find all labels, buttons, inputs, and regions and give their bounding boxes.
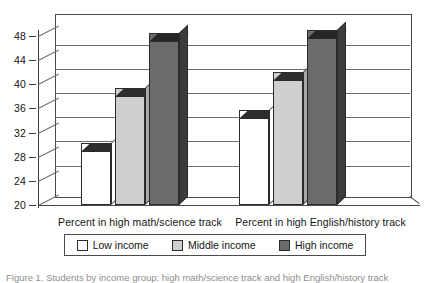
gridline <box>55 141 410 142</box>
y-axis-tick-label: 48 <box>4 30 26 42</box>
y-axis-tick-mark <box>29 133 36 134</box>
bar-front-face <box>81 143 111 205</box>
bar-side-face <box>179 25 188 205</box>
y-axis-tick-label: 32 <box>4 127 26 139</box>
bar-english-high-income[interactable] <box>307 30 337 205</box>
bar-english-middle-income[interactable] <box>273 72 303 205</box>
legend-label: Middle income <box>188 239 256 251</box>
y-axis-tick-label: 40 <box>4 78 26 90</box>
bar-front-face <box>307 30 337 205</box>
bar-math-low-income[interactable] <box>81 143 111 205</box>
x-axis-category-label-math: Percent in high math/science track <box>40 216 240 228</box>
y-axis-tick-mark <box>29 60 36 61</box>
bar-front-face <box>239 110 269 205</box>
legend-item-low-income[interactable]: Low income <box>77 239 149 251</box>
y-axis-tick-mark <box>29 36 36 37</box>
chart-floor-right-edge <box>409 196 419 204</box>
y-axis-tick-label: 20 <box>4 199 26 211</box>
y-axis-tick-label: 24 <box>4 175 26 187</box>
bar-front-face <box>273 72 303 205</box>
figure-container: 48 44 40 36 32 28 24 20 <box>0 0 426 283</box>
x-axis-category-label-english: Percent in high English/history track <box>218 216 423 228</box>
bar-english-low-income[interactable] <box>239 110 269 205</box>
chart-legend: Low income Middle income High income <box>64 234 366 256</box>
bar-side-face <box>337 22 346 205</box>
y-axis-tick-label: 28 <box>4 151 26 163</box>
bar-front-face <box>115 88 145 205</box>
gridline <box>55 93 410 94</box>
legend-swatch-high-income-icon <box>279 240 290 251</box>
chart-floor-edge <box>38 205 420 206</box>
figure-caption: Figure 1. Students by income group: high… <box>6 272 426 283</box>
legend-item-middle-income[interactable]: Middle income <box>172 239 256 251</box>
gridline <box>55 69 410 70</box>
bar-math-high-income[interactable] <box>149 33 179 205</box>
y-axis-tick-label: 44 <box>4 54 26 66</box>
chart-plot-area: 48 44 40 36 32 28 24 20 <box>0 0 426 215</box>
gridline <box>55 117 410 118</box>
legend-label: Low income <box>93 239 149 251</box>
legend-swatch-middle-income-icon <box>172 240 183 251</box>
y-axis-tick-mark <box>29 181 36 182</box>
y-axis-tick-mark <box>29 108 36 109</box>
y-axis-tick-mark <box>29 157 36 158</box>
gridline <box>55 45 410 46</box>
y-axis-tick-label: 36 <box>4 102 26 114</box>
y-axis-tick-mark <box>29 84 36 85</box>
legend-item-high-income[interactable]: High income <box>279 239 353 251</box>
bar-math-middle-income[interactable] <box>115 88 145 205</box>
y-axis-tick-mark <box>29 205 36 206</box>
legend-label: High income <box>295 239 353 251</box>
legend-swatch-low-income-icon <box>77 240 88 251</box>
bar-front-face <box>149 33 179 205</box>
